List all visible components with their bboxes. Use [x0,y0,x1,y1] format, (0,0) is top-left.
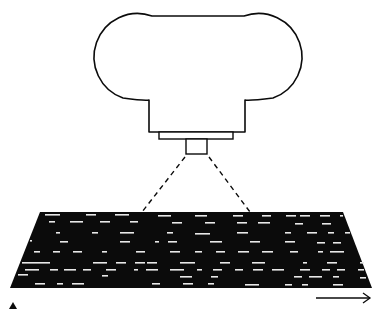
web-mark [302,284,308,286]
web-mark [318,251,323,253]
web-mark [253,269,263,271]
web-mark [208,283,214,285]
web-mark [333,284,343,286]
web-mark [115,214,129,216]
moving-web [10,212,372,288]
start-marker-icon [9,302,17,309]
camera-flange [159,132,233,139]
web-mark [25,269,39,271]
web-mark [56,232,60,234]
web-mark [100,221,110,223]
web-mark [34,251,40,253]
web-mark [233,215,243,217]
web-mark [286,215,296,217]
web-mark [285,232,291,234]
web-mark [170,269,184,271]
web-mark [172,222,182,224]
web-mark [147,262,157,264]
web-mark [285,241,295,243]
web-mark [183,283,193,285]
web-mark [360,277,366,279]
web-mark [152,283,160,285]
web-mark [252,262,265,264]
web-mark [45,214,60,216]
web-mark [195,215,207,217]
web-mark [116,262,126,264]
web-mark [134,269,138,271]
web-mark [64,269,76,271]
web-mark [300,215,310,217]
web-mark [83,269,91,271]
web-mark [102,251,107,253]
web-mark [93,262,107,264]
web-mark [155,241,159,243]
web-mark [22,262,50,264]
web-mark [262,251,273,253]
web-mark [333,276,339,278]
camera-lens [186,139,207,154]
web-mark [237,222,247,224]
camera-icon [94,14,302,154]
web-mark [73,251,82,253]
web-mark [211,276,218,278]
web-mark [180,276,192,278]
web-mark [216,251,225,253]
web-mark [250,241,260,243]
web-mark [72,283,84,285]
web-mark [322,223,331,225]
web-mark [130,221,138,223]
web-mark [92,232,98,234]
web-mark [317,242,325,244]
direction-arrow-icon [316,293,370,303]
fov-left-line [142,157,185,212]
web-mark [290,251,298,253]
web-mark [340,215,343,217]
web-mark [245,284,259,286]
web-mark [70,221,83,223]
web-mark [60,241,68,243]
web-mark [320,215,330,217]
web-mark [237,232,248,234]
web-mark [210,241,222,243]
web-mark [136,251,145,253]
web-mark [30,240,32,242]
web-mark [303,262,307,264]
web-mark [220,262,230,264]
web-mark [195,233,210,235]
web-mark [262,215,271,217]
web-mark [53,251,60,253]
web-mark [146,269,158,271]
web-mark [195,251,202,253]
web-mark [120,241,130,243]
fov-right-line [209,157,250,212]
camera-body [94,14,302,132]
web-mark [86,214,96,216]
web-mark [135,262,145,264]
web-mark [272,269,284,271]
web-mark [358,269,364,271]
web-mark [213,269,222,271]
web-mark [360,262,364,264]
web-mark [235,269,243,271]
web-mark [294,276,302,278]
web-mark [57,283,63,285]
web-mark [158,215,171,217]
web-mark [337,269,345,271]
web-mark [238,251,249,253]
web-mark [35,283,45,285]
web-mark [168,241,177,243]
field-of-view-lines [142,157,250,212]
camera-web-diagram [0,0,383,314]
web-mark [309,276,322,278]
web-mark [345,232,350,234]
web-mark [307,232,317,234]
web-mark [180,262,195,264]
web-mark [328,232,334,234]
web-mark [50,269,58,271]
web-mark [327,262,337,264]
marker-triangle [9,302,17,309]
web-mark [106,269,116,271]
web-mark [167,232,173,234]
web-mark [205,222,215,224]
web-mark [258,222,270,224]
